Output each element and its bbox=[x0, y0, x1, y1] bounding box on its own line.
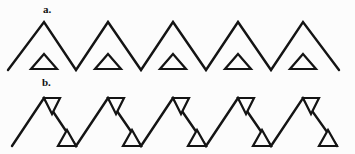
panel-label-a: a. bbox=[43, 4, 51, 15]
illusion-figure: a. b. bbox=[0, 0, 355, 154]
figure-canvas bbox=[0, 0, 355, 154]
panel-label-b: b. bbox=[42, 77, 51, 88]
